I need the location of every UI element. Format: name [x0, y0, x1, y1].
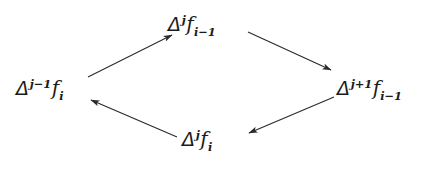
- superscript: j−1: [30, 77, 52, 91]
- arrow-top-to-right: [248, 32, 331, 70]
- delta-symbol: Δ: [16, 77, 30, 99]
- arrow-bottom-to-left: [91, 100, 177, 137]
- subscript: i: [59, 89, 63, 103]
- delta-symbol: Δ: [182, 128, 196, 150]
- superscript: j+1: [351, 77, 373, 91]
- delta-symbol: Δ: [168, 13, 182, 35]
- subscript: i: [208, 140, 212, 154]
- arrow-left-to-top: [88, 35, 172, 77]
- function-symbol: f: [200, 127, 208, 151]
- arrow-right-to-bottom: [249, 97, 334, 133]
- node-label-right: Δj+1fi−1: [337, 78, 402, 98]
- node-label-bottom: Δjfi: [182, 129, 212, 149]
- subscript: i−1: [380, 89, 402, 103]
- function-symbol: f: [186, 12, 194, 36]
- subscript: i−1: [194, 25, 216, 39]
- delta-symbol: Δ: [337, 77, 351, 99]
- node-label-top: Δjfi−1: [168, 14, 216, 34]
- node-label-left: Δj−1fi: [16, 78, 64, 98]
- commutative-diagram: Δjfi−1 Δj−1fi Δj+1fi−1 Δjfi: [0, 0, 431, 169]
